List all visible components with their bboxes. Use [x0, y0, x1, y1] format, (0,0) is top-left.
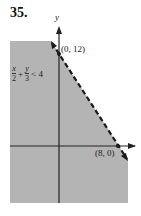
fraction-denominator: 2	[12, 73, 16, 83]
fraction-numerator: y	[25, 64, 29, 73]
point-label-x-intercept: (8, 0)	[95, 148, 115, 158]
point-label-y-intercept: (0, 12)	[61, 44, 85, 54]
point-x-intercept	[116, 144, 120, 148]
fraction-numerator: x	[12, 64, 16, 73]
inequality-label: x 2 + y 3 < 4	[12, 64, 43, 83]
relation: < 4	[31, 69, 43, 79]
y-axis-label: y	[55, 12, 59, 22]
y-axis-arrow-icon	[56, 26, 62, 34]
x-axis-arrow-icon	[128, 143, 136, 149]
plus-sign: +	[18, 69, 23, 79]
inequality-graph	[0, 0, 141, 216]
fraction-y-over-3: y 3	[25, 64, 29, 83]
boundary-arrow-top-icon	[51, 41, 57, 49]
fraction-x-over-2: x 2	[12, 64, 16, 83]
fraction-denominator: 3	[25, 73, 29, 83]
